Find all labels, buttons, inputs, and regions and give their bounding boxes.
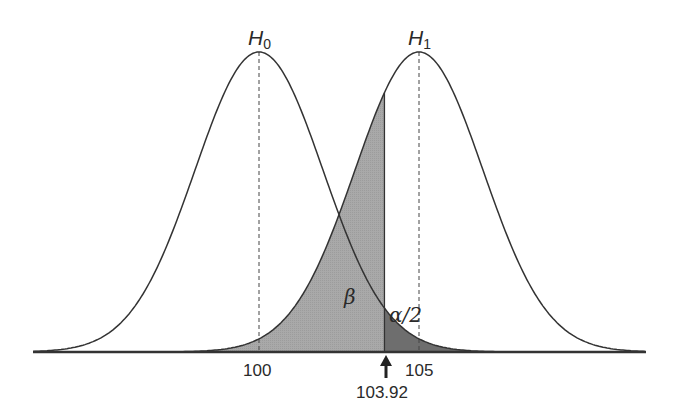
distribution-plot [0, 0, 676, 416]
alpha-half-label: α/2 [389, 303, 422, 327]
beta-label: β [344, 285, 356, 309]
h0-label: H0 [248, 26, 271, 52]
h1-label: H1 [408, 26, 431, 52]
tick-label-105: 105 [405, 361, 433, 381]
critical-value-label: 103.92 [356, 383, 408, 403]
tick-label-100: 100 [243, 361, 271, 381]
power-diagram: H0 H1 β α/2 100 105 103.92 [0, 0, 676, 416]
alpha-half-region [384, 308, 646, 352]
arrow-up-icon [380, 355, 392, 378]
